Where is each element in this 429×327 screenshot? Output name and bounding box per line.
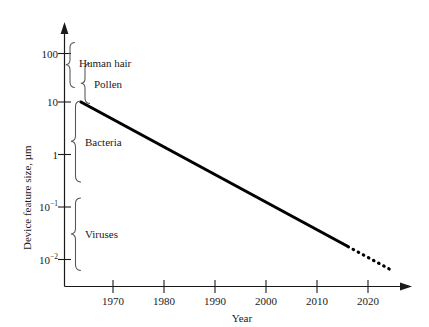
y-axis-arrow-icon <box>61 22 69 34</box>
y-tick-label-10e-2: 10−2 <box>39 254 58 265</box>
bracket-bacteria <box>71 101 81 182</box>
x-tick-label-1970: 1970 <box>102 296 124 307</box>
y-tick-label-100: 100 <box>42 48 59 59</box>
bracket-viruses <box>71 198 81 271</box>
annotation-label-pollen: Pollen <box>94 79 122 90</box>
x-axis-arrow-icon <box>400 283 412 291</box>
chart-plot-area <box>0 0 429 327</box>
x-tick-label-2010: 2010 <box>306 296 328 307</box>
annotation-label-bacteria: Bacteria <box>85 137 122 148</box>
x-tick-label-1990: 1990 <box>204 296 226 307</box>
series-projected-line <box>348 247 392 271</box>
y-tick-exponent-10e-2: −2 <box>50 251 58 260</box>
x-tick-label-2000: 2000 <box>255 296 277 307</box>
x-axis-title: Year <box>232 313 252 324</box>
x-axis <box>65 283 413 291</box>
y-axis-title: Device feature size, µm <box>22 145 33 250</box>
annotation-label-human-hair: Human hair <box>79 58 131 69</box>
x-tick-label-2020: 2020 <box>357 296 379 307</box>
bracket-human-hair <box>66 43 75 88</box>
y-tick-label-10e-1: 10−1 <box>39 202 58 213</box>
y-tick-exponent-10e-1: −1 <box>50 199 58 208</box>
y-tick-label-1: 1 <box>53 149 59 160</box>
series-observed-line <box>80 102 348 247</box>
x-tick-label-1980: 1980 <box>153 296 175 307</box>
bracket-pollen <box>81 64 90 104</box>
y-tick-label-10: 10 <box>47 97 58 108</box>
annotation-label-viruses: Viruses <box>85 229 118 240</box>
chart-figure: 100 10 1 10−1 10−2 1970 1980 1990 2000 2… <box>0 0 429 327</box>
